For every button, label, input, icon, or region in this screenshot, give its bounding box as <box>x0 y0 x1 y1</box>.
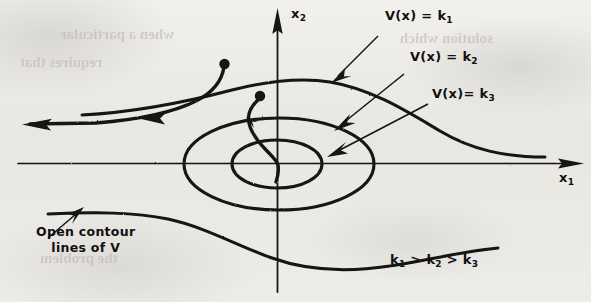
contour-label-k1-subscript: 1 <box>446 15 453 25</box>
axis-label-x2: x2 <box>291 6 306 24</box>
contour-label-k2-variable: x <box>427 49 436 64</box>
contour-label-k1-prefix: V( <box>385 8 402 23</box>
axis-label-x2-text: x <box>291 6 300 21</box>
contour-label-k2-prefix: V( <box>410 49 427 64</box>
trajectory-1 <box>22 59 230 131</box>
open-contour-caption: Open contour lines of V <box>36 224 135 255</box>
trajectory-2-initial-point <box>255 91 265 101</box>
ordering-operator-1: > <box>406 252 427 267</box>
contour-label-k2-suffix: ) = k <box>435 49 471 64</box>
figure-vector-layer <box>0 0 591 302</box>
contour-label-k2-subscript: 2 <box>471 56 478 66</box>
open-contour-caption-line1: Open contour <box>36 224 135 240</box>
contour-label-k1-variable: x <box>402 8 411 23</box>
contour-label-k1-suffix: ) = k <box>410 8 446 23</box>
ordering-k3-subscript: 3 <box>472 259 479 269</box>
axis-label-x2-subscript: 2 <box>300 13 307 23</box>
ordering-operator-2: > <box>442 252 463 267</box>
ordering-k2: k <box>426 252 435 267</box>
contour-label-k3-prefix: V( <box>432 86 449 101</box>
contour-label-k3-suffix: )= k <box>457 86 488 101</box>
pointer-arrow-k1 <box>331 36 378 83</box>
axis-label-x1-text: x <box>559 170 568 185</box>
contour-label-k3-subscript: 3 <box>489 93 496 103</box>
vertical-axis <box>272 8 282 292</box>
axis-label-x1-subscript: 1 <box>568 177 575 187</box>
contour-label-k3-variable: x <box>449 86 458 101</box>
trajectory-1-initial-point <box>219 59 229 69</box>
ordering-k3: k <box>463 252 472 267</box>
contour-label-k2: V(x) = k2 <box>410 49 478 67</box>
contour-label-k3: V(x)= k3 <box>432 86 495 104</box>
axis-label-x1: x1 <box>559 170 574 188</box>
ordering-k1: k <box>390 252 399 267</box>
figure-canvas: when a particular requires that solution… <box>0 0 591 302</box>
ordering-relation-label: k1 > k2 > k3 <box>390 252 478 270</box>
trajectory-2 <box>246 91 278 182</box>
horizontal-axis <box>18 159 584 169</box>
contour-label-k1: V(x) = k1 <box>385 8 453 26</box>
open-contour-caption-line2: lines of V <box>36 240 135 256</box>
